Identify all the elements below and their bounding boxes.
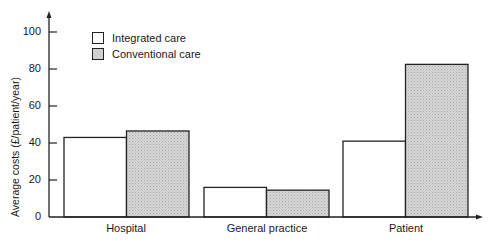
y-tick-label: 100 — [17, 25, 41, 37]
y-axis-arrow-icon — [47, 11, 52, 18]
bars-group — [64, 64, 468, 217]
bar-chart: 020406080100 Average costs (£/patient/ye… — [0, 0, 489, 244]
legend-swatch-conventional — [92, 48, 104, 60]
y-ticks — [49, 32, 57, 180]
bar-patient-conventional-care — [406, 64, 469, 217]
bar-general-practice-integrated-care — [204, 187, 267, 217]
category-label-patient: Patient — [336, 222, 476, 234]
category-label-general-practice: General practice — [197, 222, 337, 234]
legend-label-integrated: Integrated care — [112, 32, 186, 44]
bar-general-practice-conventional-care — [267, 190, 330, 217]
chart-plot-area — [0, 0, 489, 244]
y-axis-label: Average costs (£/patient/year) — [9, 77, 21, 217]
bar-hospital-conventional-care — [127, 131, 190, 217]
legend-item-integrated: Integrated care — [92, 32, 186, 44]
x-axis-arrow-icon — [476, 215, 483, 220]
legend-label-conventional: Conventional care — [112, 48, 201, 60]
bar-hospital-integrated-care — [64, 137, 127, 217]
bar-patient-integrated-care — [343, 141, 406, 217]
category-label-hospital: Hospital — [56, 222, 196, 234]
legend-swatch-integrated — [92, 32, 104, 44]
legend-item-conventional: Conventional care — [92, 48, 201, 60]
y-tick-label: 80 — [17, 62, 41, 74]
